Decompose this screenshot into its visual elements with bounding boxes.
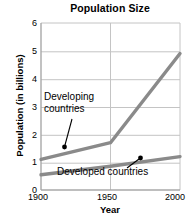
annotation-developing-line1: Developing [44,91,94,103]
annotation-developed-line1: Developed countries [57,166,148,178]
plot-area [0,0,192,219]
chart-figure: Population Size Population (in billions)… [0,0,192,219]
annotation-developing-countries: Developing countries [44,91,94,114]
annotation-developed-countries: Developed countries [57,166,148,178]
annotation-developing-line2: countries [44,103,94,115]
